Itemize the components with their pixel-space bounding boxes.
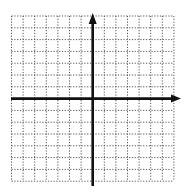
x-axis-arrow-icon bbox=[171, 95, 181, 103]
coordinate-plane bbox=[0, 0, 185, 193]
y-axis-arrow-icon bbox=[89, 13, 97, 24]
axes bbox=[11, 13, 181, 186]
